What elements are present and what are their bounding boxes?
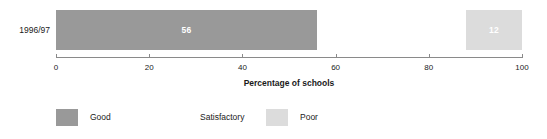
legend-item-satisfactory[interactable]: Satisfactory xyxy=(166,106,244,128)
bar-segment-poor: 12 xyxy=(466,10,522,50)
x-axis-tick xyxy=(522,54,523,58)
bar-segment-value: 12 xyxy=(489,26,499,35)
bar-segment-satisfactory: 32 xyxy=(317,10,466,50)
plot-area: 563212 xyxy=(56,10,522,50)
x-axis-tick-label: 60 xyxy=(331,63,340,72)
x-axis-tick-label: 100 xyxy=(515,63,528,72)
x-axis-tick xyxy=(336,54,337,58)
legend-swatch-icon xyxy=(266,109,288,126)
legend-swatch-icon xyxy=(166,109,188,126)
legend-swatch-icon xyxy=(56,109,78,126)
legend-label: Good xyxy=(90,112,111,122)
x-axis-tick-label: 40 xyxy=(238,63,247,72)
stacked-bar-chart: 1996/97 563212 020406080100 Percentage o… xyxy=(0,0,547,139)
x-axis-tick xyxy=(56,54,57,58)
x-axis-tick xyxy=(429,54,430,58)
x-axis-tick-label: 20 xyxy=(145,63,154,72)
x-axis-title: Percentage of schools xyxy=(56,78,522,88)
x-axis-line: 020406080100 xyxy=(56,57,522,58)
legend-label: Satisfactory xyxy=(200,112,244,122)
x-axis-tick xyxy=(149,54,150,58)
x-axis-tick-label: 80 xyxy=(424,63,433,72)
category-label-1996-97: 1996/97 xyxy=(19,10,50,50)
legend-item-good[interactable]: Good xyxy=(56,106,111,128)
bar-segment-value: 56 xyxy=(182,26,192,35)
table-row: 563212 xyxy=(56,10,522,50)
x-axis-tick xyxy=(242,54,243,58)
category-label-column: 1996/97 xyxy=(0,10,50,50)
legend-item-poor[interactable]: Poor xyxy=(266,106,318,128)
x-axis-tick-label: 0 xyxy=(54,63,58,72)
legend-label: Poor xyxy=(300,112,318,122)
bar-segment-good: 56 xyxy=(56,10,317,50)
